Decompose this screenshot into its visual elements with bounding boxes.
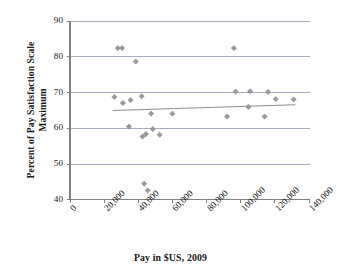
data-point-13 [150, 126, 155, 131]
data-point-21 [262, 114, 267, 119]
x-axis-title: Pay in $US, 2009 [0, 252, 341, 263]
data-point-7 [139, 94, 144, 99]
grid-lines [70, 21, 310, 199]
data-point-5 [128, 98, 133, 103]
data-point-17 [231, 45, 236, 50]
data-points-group [112, 45, 296, 193]
tick-marks [67, 21, 310, 203]
y-tick-label-40: 40 [43, 194, 63, 204]
chart-figure: 405060708090 020,00040,00060,00080,00010… [0, 0, 341, 275]
data-point-15 [170, 111, 175, 116]
axis-lines [70, 21, 310, 199]
data-point-6 [133, 59, 138, 64]
data-point-3 [120, 100, 125, 105]
data-point-9 [142, 181, 147, 186]
y-tick-label-80: 80 [43, 51, 63, 61]
y-tick-label-70: 70 [43, 87, 63, 97]
data-point-24 [291, 97, 296, 102]
data-point-23 [273, 96, 278, 101]
data-point-12 [148, 111, 153, 116]
data-point-2 [119, 45, 124, 50]
y-tick-label-60: 60 [43, 122, 63, 132]
y-tick-label-50: 50 [43, 158, 63, 168]
data-point-0 [112, 94, 117, 99]
data-point-16 [224, 114, 229, 119]
data-point-18 [233, 89, 238, 94]
y-tick-label-90: 90 [43, 15, 63, 25]
trend-line [113, 105, 296, 111]
data-point-22 [265, 89, 270, 94]
data-point-14 [157, 132, 162, 137]
trend-line-segment [113, 105, 296, 111]
data-point-19 [246, 104, 251, 109]
scatter-plot-canvas [0, 0, 341, 275]
